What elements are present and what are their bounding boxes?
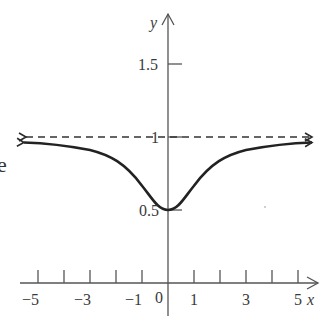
- function-graph: −5 −3 −1 0 1 3 5 1.5 1 0.5 x y: [0, 0, 333, 328]
- x-tick-label-neg5: −5: [22, 291, 39, 308]
- y-tick-label-0-5: 0.5: [139, 202, 159, 219]
- y-axis-label: y: [148, 14, 158, 32]
- origin-label: 0: [155, 289, 163, 306]
- y-tick-label-1: 1: [151, 129, 159, 146]
- y-tick-label-1-5: 1.5: [138, 56, 158, 73]
- x-tick-label-5: 5: [294, 291, 302, 308]
- x-axis-label: x: [306, 291, 314, 308]
- x-tick-label-1: 1: [190, 291, 198, 308]
- x-tick-label-neg3: −3: [74, 291, 91, 308]
- speck-artifact: [264, 206, 266, 208]
- x-tick-label-3: 3: [242, 291, 250, 308]
- x-tick-label-neg1: −1: [125, 291, 142, 308]
- chart-container: e: [0, 0, 333, 328]
